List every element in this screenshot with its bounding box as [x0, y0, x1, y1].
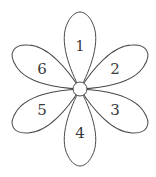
petal-label-6: 6 — [37, 60, 47, 78]
petal-label-4: 4 — [75, 124, 85, 142]
petal-label-2: 2 — [110, 60, 120, 78]
flower-center — [73, 82, 87, 96]
petal-label-5: 5 — [37, 101, 47, 119]
flower-diagram: 1 2 3 4 5 6 — [0, 0, 156, 177]
petal-label-3: 3 — [110, 101, 120, 119]
petal-label-1: 1 — [75, 37, 85, 55]
